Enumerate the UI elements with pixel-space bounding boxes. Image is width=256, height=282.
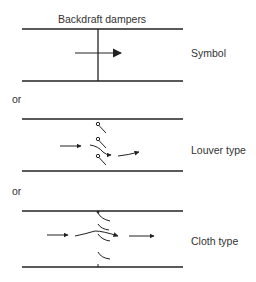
symbol-panel — [22, 29, 183, 81]
cloth-flap — [98, 252, 110, 259]
pivot-icon — [96, 122, 99, 125]
outlet-flow-arrow-icon — [118, 152, 139, 156]
louver-blade — [99, 158, 106, 166]
cloth-flap — [98, 213, 110, 221]
through-flow-arrow-icon — [75, 231, 118, 236]
pivot-icon — [96, 137, 99, 140]
cloth-flap — [98, 234, 110, 241]
louver-panel — [22, 119, 183, 171]
louver-blade — [99, 126, 106, 134]
cloth-panel — [22, 211, 183, 267]
louver-blade — [99, 141, 106, 149]
pivot-icon — [96, 154, 99, 157]
cloth-flap — [98, 224, 109, 230]
anchor-point-icon — [97, 211, 99, 213]
through-flow-arrow-icon — [90, 145, 111, 155]
damper-drawings — [0, 0, 256, 282]
